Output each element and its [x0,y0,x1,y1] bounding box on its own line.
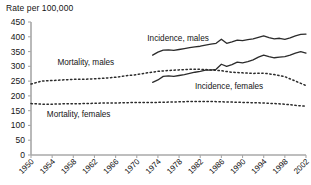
y-axis-tick-labels: 050100150200250300350400450 [11,17,25,160]
series-line-mortality-females [31,102,306,107]
x-tick-label: 1986 [207,157,226,176]
x-tick-label: 1962 [80,157,99,176]
x-tick-label: 1966 [102,157,121,176]
x-tick-label: 1982 [186,157,205,176]
x-tick-label: 1958 [59,157,78,176]
series-label-mortality-males: Mortality, males [57,58,114,67]
y-tick-label: 300 [11,61,25,71]
series-label-mortality-females: Mortality, females [47,110,111,119]
x-tick-label: 1990 [229,157,248,176]
y-tick-label: 100 [11,120,25,130]
series-line-mortality-males [31,69,306,85]
y-tick-label: 250 [11,76,25,86]
y-tick-label: 450 [11,17,25,27]
series-label-incidence-females: Incidence, females [195,82,263,91]
x-tick-label: 1998 [271,157,290,176]
x-tick-label: 1954 [38,157,57,176]
y-tick-label: 400 [11,32,25,42]
y-tick-label: 50 [16,135,26,145]
series-annotation-labels: Incidence, malesIncidence, femalesMortal… [47,34,263,119]
series-line-incidence-females [153,52,306,83]
y-tick-label: 150 [11,106,25,116]
x-tick-label: 2002 [292,157,311,176]
chart-container: Rate per 100,000 05010015020025030035040… [0,0,311,185]
x-tick-label: 1994 [250,157,269,176]
chart-plot-area: 050100150200250300350400450 195019541958… [0,0,311,185]
y-tick-label: 200 [11,91,25,101]
y-tick-label: 350 [11,47,25,57]
data-series-group [31,34,306,106]
x-tick-label: 1974 [144,157,163,176]
series-label-incidence-males: Incidence, males [147,34,208,43]
x-tick-label: 1978 [165,157,184,176]
x-tick-label: 1970 [123,157,142,176]
y-tick-label: 0 [20,150,25,160]
x-axis-tick-labels: 1950195419581962196619701974197819821986… [17,157,311,176]
